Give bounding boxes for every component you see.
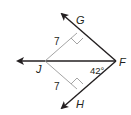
label-j: J [35,63,42,75]
ray-fh [62,61,116,108]
length-jh: 7 [54,81,60,92]
segment-jg [45,33,77,61]
length-jg: 7 [54,36,60,47]
geometry-figure: G J F H 7 7 42° [0,0,131,115]
label-f: F [119,56,127,68]
right-angle-mark-g [71,38,83,44]
angle-label: 42° [90,65,105,76]
segment-jh [45,61,77,89]
ray-fg [62,14,116,61]
label-h: H [76,98,84,110]
right-angle-mark-h [71,78,83,84]
label-g: G [76,14,85,26]
